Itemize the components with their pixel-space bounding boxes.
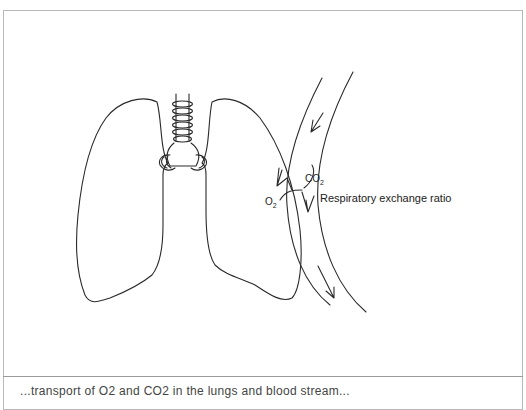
flow-arrow-bottom xyxy=(318,266,334,298)
o2-arc xyxy=(280,190,302,200)
left-lung xyxy=(77,99,168,302)
bronchi-junction xyxy=(167,143,199,166)
co2-label: CO2 xyxy=(305,173,324,186)
o2-label: O2 xyxy=(265,196,277,209)
flow-arrow-top xyxy=(311,113,323,132)
caption-divider xyxy=(3,376,523,377)
exchange-arrow-right xyxy=(302,192,314,212)
figure-caption: ...transport of O2 and CO2 in the lungs … xyxy=(20,384,350,398)
respiratory-exchange-ratio-label: Respiratory exchange ratio xyxy=(320,192,451,204)
